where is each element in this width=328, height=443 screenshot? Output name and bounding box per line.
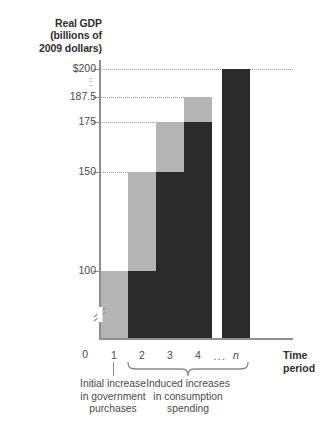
bar-3-base-segment [156,172,184,338]
y-axis-title-line-3: 2009 dollars) [14,42,102,54]
gdp-multiplier-chart: Real GDP (billions of 2009 dollars) [0,0,328,443]
bar-2-base-segment [128,271,156,338]
axis-break-icon [92,300,108,322]
ytick-label-187-5: 187.5 [34,91,96,102]
bar-period-n [222,69,250,338]
bar-period-3 [156,122,184,338]
gridline-200 [100,69,293,70]
annotation-brace-induced-icon [126,361,250,377]
ytick-label-200: $200 [34,63,96,74]
annotation-induced-line-3: spending [128,403,248,416]
ytick-label-175: 175 [34,116,96,127]
annotation-induced-line-2: in consumption [128,391,248,404]
y-axis-title-line-2: (billions of [14,29,102,41]
x-axis-line [99,338,293,340]
bar-2-increment-segment [128,172,156,271]
ytick-label-100: 100 [34,265,96,276]
xtick-label-4: 4 [187,349,209,361]
annotation-stem-period-1 [113,362,114,376]
y-axis-title: Real GDP (billions of 2009 dollars) [14,17,102,54]
annotation-induced-line-1: Induced increases [128,378,248,391]
bar-n-total-segment [222,69,250,338]
bar-period-2 [128,172,156,338]
y-axis-title-line-1: Real GDP [14,17,102,29]
bar-4-increment-segment [184,97,212,122]
xtick-label-1: 1 [103,349,125,361]
annotation-induced-increases: Induced increases in consumption spendin… [128,378,248,416]
x-axis-title-line-2: period [283,362,327,375]
bar-period-4 [184,97,212,338]
bar-4-base-segment [184,122,212,338]
y-axis-ellipsis-icon: ⋮ [34,77,96,86]
xtick-label-n: n [225,349,247,361]
ytick-label-0: 0 [68,349,88,360]
bar-3-increment-segment [156,122,184,172]
xtick-label-2: 2 [131,349,153,361]
x-axis-title-line-1: Time [283,349,327,362]
ytick-label-150: 150 [34,166,96,177]
xtick-label-3: 3 [159,349,181,361]
y-axis-line [99,60,101,338]
x-axis-title: Time period [283,349,327,374]
